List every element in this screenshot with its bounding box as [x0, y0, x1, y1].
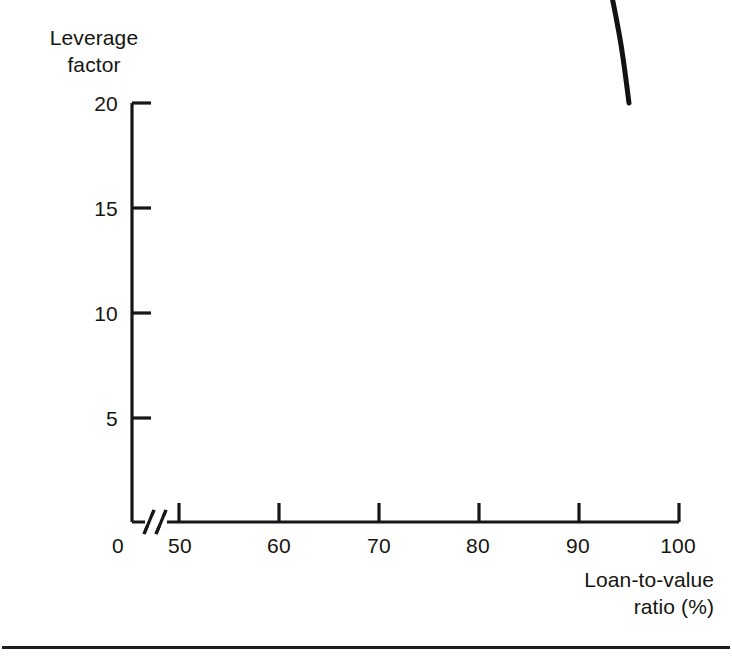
plot-area	[0, 0, 732, 662]
x-axis	[132, 503, 679, 522]
chart-figure: Leverage factor Loan-to-value ratio (%) …	[0, 0, 732, 662]
leverage-curve	[179, 0, 629, 103]
y-axis	[132, 103, 151, 522]
bottom-rule	[2, 646, 730, 649]
